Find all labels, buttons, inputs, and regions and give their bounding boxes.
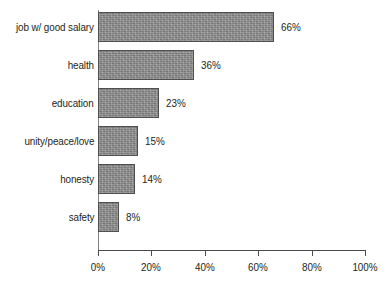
x-tick-label-2: 40% [195,261,215,273]
bar-value-3: 15% [145,135,165,147]
x-tick-label-5: 100% [352,261,377,273]
bar-0 [98,12,274,42]
category-label-1: health [68,59,94,71]
x-tick-1 [151,250,152,256]
category-label-2: education [52,97,94,109]
bar-value-2: 23% [166,97,186,109]
bar-value-1: 36% [201,59,221,71]
plot-area: 66% 36% 23% 15% 14% 8% 0% 20% 40% 60% 80… [98,0,388,252]
x-tick-label-4: 80% [302,261,322,273]
category-label-4: honesty [60,173,94,185]
bar-4 [98,164,135,194]
bar-value-5: 8% [126,211,140,223]
x-tick-label-1: 20% [142,261,162,273]
x-tick-4 [312,250,313,256]
category-label-0: job w/ good salary [16,21,94,33]
category-label-3: unity/peace/love [24,135,94,147]
bar-value-0: 66% [281,21,301,33]
x-tick-label-3: 60% [248,261,268,273]
bar-1 [98,50,194,80]
bar-2 [98,88,159,118]
x-axis-line [98,250,365,251]
bar-5 [98,202,119,232]
bar-3 [98,126,138,156]
category-label-5: safety [68,211,94,223]
x-tick-3 [258,250,259,256]
bar-chart: job w/ good salary health education unit… [0,0,388,286]
x-tick-5 [365,250,366,256]
bar-value-4: 14% [142,173,162,185]
x-tick-2 [205,250,206,256]
x-tick-0 [98,250,99,256]
x-tick-label-0: 0% [91,261,105,273]
